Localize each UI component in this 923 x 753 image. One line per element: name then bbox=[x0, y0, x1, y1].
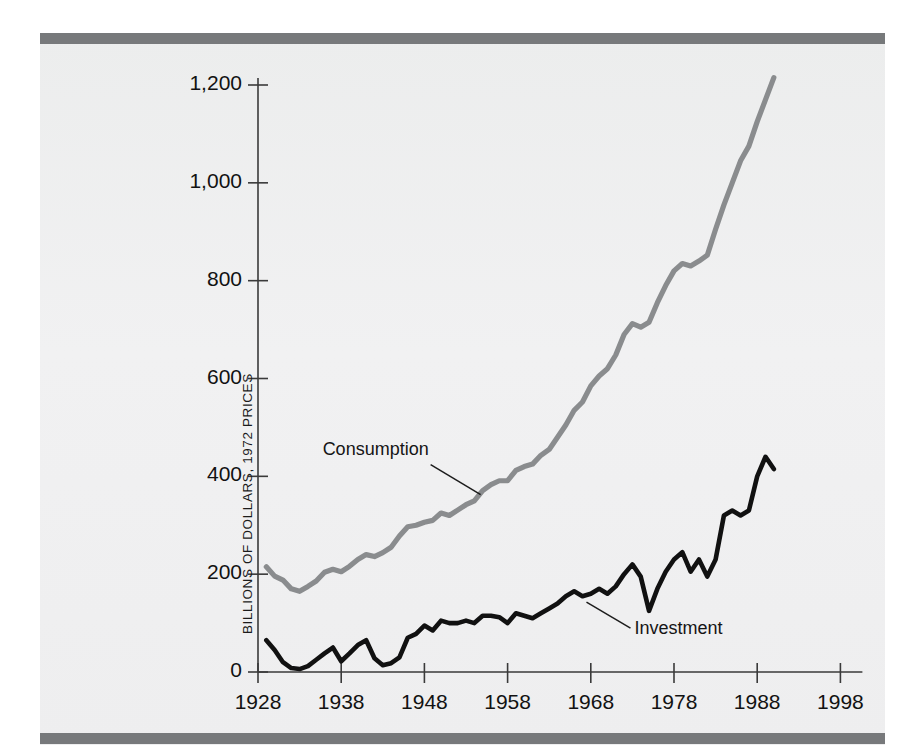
y-tick-label: 800 bbox=[207, 267, 242, 291]
x-tick-label: 1968 bbox=[551, 690, 631, 714]
figure-page: BILLIONS OF DOLLARS, 1972 PRICES 1,2001,… bbox=[0, 0, 923, 753]
x-tick-label: 1988 bbox=[717, 690, 797, 714]
y-tick-label: 0 bbox=[230, 658, 242, 682]
leader-line-consumption bbox=[431, 465, 481, 495]
top-rule-bar bbox=[40, 33, 885, 44]
x-tick-label: 1998 bbox=[800, 690, 880, 714]
x-tick-label: 1978 bbox=[634, 690, 714, 714]
y-tick-label: 1,000 bbox=[189, 169, 242, 193]
y-axis-title: BILLIONS OF DOLLARS, 1972 PRICES bbox=[240, 373, 255, 634]
chart-plot-area: BILLIONS OF DOLLARS, 1972 PRICES 1,2001,… bbox=[40, 44, 885, 733]
chart-svg bbox=[40, 44, 885, 733]
x-tick-label: 1938 bbox=[301, 690, 381, 714]
axes-group bbox=[248, 78, 862, 683]
y-tick-label: 600 bbox=[207, 365, 242, 389]
x-tick-label: 1928 bbox=[218, 690, 298, 714]
series-label-investment: Investment bbox=[634, 618, 722, 639]
bottom-rule-bar bbox=[40, 733, 885, 744]
y-tick-label: 1,200 bbox=[189, 71, 242, 95]
series-label-consumption: Consumption bbox=[323, 439, 429, 460]
annotation-leader-lines bbox=[431, 465, 631, 629]
series-group bbox=[266, 78, 774, 669]
leader-line-investment bbox=[586, 602, 630, 628]
y-tick-label: 400 bbox=[207, 462, 242, 486]
series-line-consumption bbox=[266, 78, 774, 592]
x-tick-label: 1958 bbox=[468, 690, 548, 714]
y-tick-label: 200 bbox=[207, 560, 242, 584]
x-tick-label: 1948 bbox=[384, 690, 464, 714]
